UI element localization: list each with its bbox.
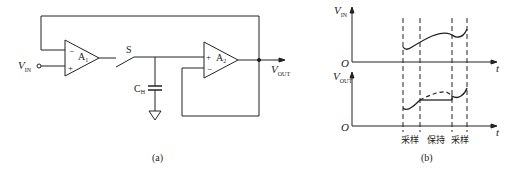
a2-minus-sign: −: [207, 64, 212, 74]
switch-s-icon: [116, 57, 134, 67]
vout-label: VOUT: [271, 63, 290, 77]
switch-label: S: [126, 44, 132, 55]
vin-label: VIN: [18, 59, 32, 73]
phase-label-sample-1: 采样: [401, 134, 419, 145]
top-y-arrow-icon: [350, 7, 354, 13]
sample-and-hold-figure: VIN − + A1 S CH + − A2 VOUT (a) VIN O t …: [0, 0, 515, 178]
a1-plus-sign: +: [68, 63, 73, 73]
top-origin-label: O: [341, 57, 349, 69]
phase-label-hold: 保持: [427, 134, 445, 145]
vout-arrow-icon: [279, 58, 285, 62]
sample-hold-circuit: [37, 16, 285, 120]
bottom-origin-label: O: [341, 121, 349, 133]
a2-label: A2: [216, 52, 226, 64]
vin-waveform: [403, 29, 467, 49]
phase-label-sample-2: 采样: [451, 134, 469, 145]
panel-b-caption: (b): [421, 152, 433, 164]
bottom-x-axis-label: t: [496, 126, 500, 138]
cap-label: CH: [134, 83, 146, 95]
a2-feedback-wire: [182, 60, 259, 116]
panel-a-caption: (a): [152, 152, 163, 164]
ground-icon: [149, 111, 161, 120]
a2-plus-sign: +: [206, 52, 211, 62]
a1-minus-sign: −: [69, 46, 74, 56]
vout-sample-2: [452, 88, 467, 100]
top-x-axis-label: t: [496, 62, 500, 74]
vin-terminal-icon: [37, 64, 41, 68]
bottom-y-axis-label: VOUT: [333, 70, 352, 84]
timing-waveforms: [350, 7, 497, 132]
a1-label: A1: [78, 51, 88, 63]
vout-sample-1: [403, 100, 420, 109]
top-y-axis-label: VIN: [334, 4, 348, 18]
vin-tracking-dashed: [420, 92, 452, 100]
